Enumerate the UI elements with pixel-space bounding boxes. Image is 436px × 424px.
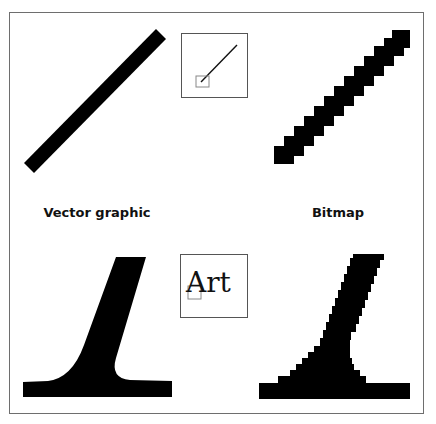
vector-graphic-label: Vector graphic	[37, 205, 157, 220]
bitmap-letter-serif	[259, 254, 410, 399]
thumbnail-line-graphic	[182, 34, 249, 99]
bitmap-diagonal-line	[274, 30, 410, 164]
zoom-marker-icon	[196, 76, 209, 87]
bitmap-label: Bitmap	[298, 205, 378, 220]
thumbnail-word: Art	[186, 266, 231, 299]
vector-diagonal-line	[24, 29, 166, 173]
vector-letter-serif	[23, 257, 172, 397]
line-thumbnail	[181, 33, 248, 98]
